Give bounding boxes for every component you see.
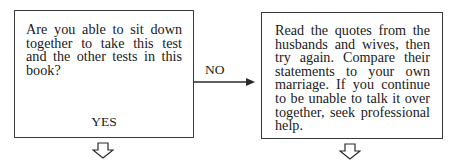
advice-box: Read the quotes from the husbands and wi…: [261, 12, 443, 139]
question-box: Are you able to sit down together to tak…: [14, 10, 194, 138]
hollow-down-arrow-icon: [92, 142, 114, 159]
yes-label: YES: [15, 114, 193, 130]
question-text: Are you able to sit down together to tak…: [26, 23, 182, 77]
advice-text: Read the quotes from the husbands and wi…: [275, 24, 430, 133]
arrow-right-icon: [193, 76, 259, 88]
hollow-down-arrow-icon: [339, 143, 361, 160]
